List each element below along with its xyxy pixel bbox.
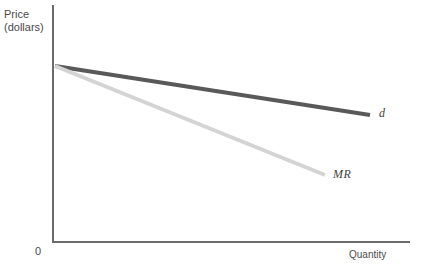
y-axis-label-line1: Price xyxy=(4,8,29,20)
economics-figure: Price (dollars) Quantity 0 d MR xyxy=(0,0,427,274)
plot-area: Price (dollars) Quantity 0 d MR xyxy=(0,0,427,274)
y-axis-label: Price (dollars) xyxy=(4,8,44,34)
marginal-revenue-curve xyxy=(55,66,325,175)
y-axis-label-line2: (dollars) xyxy=(4,21,44,34)
demand-curve-label: d xyxy=(379,106,385,121)
marginal-revenue-curve-label: MR xyxy=(333,167,351,182)
demand-curve xyxy=(55,66,370,115)
origin-label: 0 xyxy=(35,245,41,257)
x-axis-label: Quantity xyxy=(349,249,386,260)
curves-group xyxy=(0,0,427,274)
